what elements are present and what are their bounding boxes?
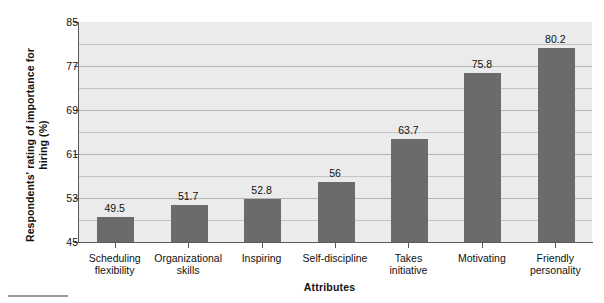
y-axis-title: Respondents' rating of importance for hi…: [24, 45, 50, 245]
x-tick-mark: [188, 242, 189, 248]
x-tick-label: Friendlypersonality: [512, 252, 598, 276]
x-tick-mark: [262, 242, 263, 248]
x-tick-label-line: Friendly: [512, 252, 598, 264]
x-axis-title: Attributes: [0, 281, 604, 293]
x-tick-mark: [335, 242, 336, 248]
gridline: [79, 44, 592, 45]
gridline: [79, 66, 592, 67]
footer-rule: [8, 295, 68, 297]
bar-value-label: 51.7: [158, 191, 218, 202]
x-tick-label-line: initiative: [365, 264, 451, 276]
y-tick-label: 85: [56, 17, 78, 27]
gridline: [79, 88, 592, 89]
bar: [391, 139, 428, 242]
gridline: [79, 132, 592, 133]
x-tick-mark: [555, 242, 556, 248]
gridline: [79, 154, 592, 155]
bar: [244, 199, 281, 242]
gridline: [79, 110, 592, 111]
bar-value-label: 63.7: [378, 125, 438, 136]
bar-value-label: 52.8: [232, 185, 292, 196]
y-tick-label: 45: [56, 237, 78, 247]
bar: [97, 217, 134, 242]
bar-value-label: 49.5: [85, 203, 145, 214]
bar: [464, 73, 501, 242]
bar-chart-figure: Respondents' rating of importance for hi…: [0, 0, 604, 303]
bar: [538, 48, 575, 242]
x-tick-mark: [482, 242, 483, 248]
x-tick-label-line: personality: [512, 264, 598, 276]
y-tick-label: 61: [56, 149, 78, 159]
x-tick-mark: [408, 242, 409, 248]
x-tick-mark: [115, 242, 116, 248]
bar-value-label: 75.8: [452, 59, 512, 70]
bar-value-label: 80.2: [525, 34, 585, 45]
y-tick-label: 53: [56, 193, 78, 203]
x-axis-title-text: Attributes: [304, 281, 356, 293]
x-tick-label-line: skills: [145, 264, 231, 276]
y-tick-label: 77: [56, 61, 78, 71]
plot-area: [78, 22, 592, 242]
y-tick-label: 69: [56, 105, 78, 115]
bar: [318, 182, 355, 243]
bar-value-label: 56: [305, 168, 365, 179]
bar: [171, 205, 208, 242]
